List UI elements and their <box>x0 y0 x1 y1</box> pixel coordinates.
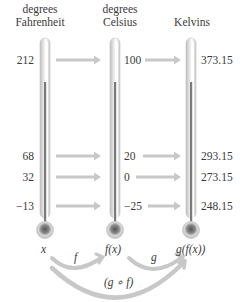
celsius-value: 20 <box>124 150 136 162</box>
label-g: g <box>151 251 157 263</box>
celsius-value: 0 <box>124 171 130 183</box>
celsius-value: 100 <box>124 54 141 66</box>
header-fahrenheit: degrees Fahrenheit <box>4 3 76 29</box>
kelvin-value: 293.15 <box>201 150 233 162</box>
fahrenheit-value: 32 <box>4 171 34 183</box>
label-f: f <box>74 251 77 263</box>
celsius-value: −25 <box>124 200 142 212</box>
fahrenheit-value: 68 <box>4 150 34 162</box>
thermometer-fahrenheit <box>37 38 54 239</box>
thermometer-celsius <box>107 38 124 239</box>
thermometer-kelvin <box>183 38 200 239</box>
header-celsius: degrees Celsius <box>90 3 150 29</box>
header-kelvin: Kelvins <box>166 3 218 29</box>
label-gfx: g(f(x)) <box>176 243 205 255</box>
kelvin-value: 373.15 <box>201 54 233 66</box>
label-x: x <box>41 243 46 255</box>
label-fx: f(x) <box>105 243 121 255</box>
arrows-f-to-c <box>56 56 101 211</box>
fahrenheit-value: 212 <box>4 54 34 66</box>
arrows-c-to-k <box>136 56 181 211</box>
kelvin-value: 248.15 <box>201 200 233 212</box>
kelvin-value: 273.15 <box>201 171 233 183</box>
fahrenheit-value: −13 <box>4 200 34 212</box>
label-composite: (g ∘ f) <box>104 275 133 289</box>
